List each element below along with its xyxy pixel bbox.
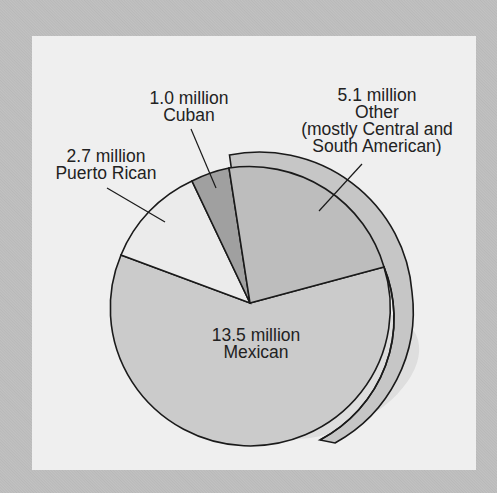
label-mexican-name: Mexican	[212, 344, 301, 361]
label-cuban-name: Cuban	[150, 107, 229, 124]
label-other-note-2: South American)	[301, 138, 453, 155]
label-mexican: 13.5 million Mexican	[212, 327, 301, 361]
label-puerto-rican: 2.7 million Puerto Rican	[55, 148, 156, 182]
pie-chart	[0, 0, 497, 493]
label-puerto-rican-name: Puerto Rican	[55, 165, 156, 182]
label-cuban: 1.0 million Cuban	[150, 90, 229, 124]
label-other: 5.1 million Other (mostly Central and So…	[301, 87, 453, 155]
